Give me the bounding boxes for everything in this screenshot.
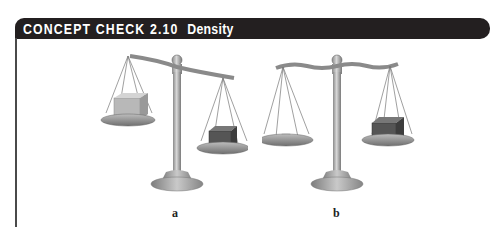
- pole: [151, 55, 203, 191]
- concept-check-header: CONCEPT CHECK 2.10Density: [15, 18, 490, 39]
- header-prefix: CONCEPT CHECK 2.10: [23, 21, 178, 37]
- pole: [311, 55, 363, 191]
- header-title: Density: [187, 21, 233, 37]
- figure-b-caption: b: [333, 206, 340, 221]
- figure-a-balance: [88, 50, 248, 200]
- left-pan: [264, 67, 309, 137]
- header-label: CONCEPT CHECK 2.10Density: [23, 21, 234, 37]
- beam: [276, 64, 398, 68]
- left-border-rule: [15, 38, 17, 227]
- figure-a-caption: a: [172, 206, 178, 221]
- figure-b-balance: [262, 50, 422, 200]
